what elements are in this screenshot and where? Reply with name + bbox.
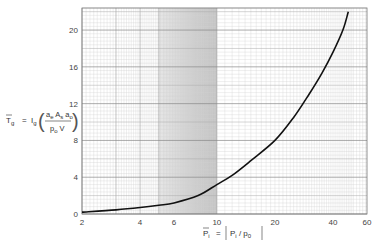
x-tick-label: 60: [363, 218, 372, 227]
grid-minor: [82, 8, 367, 214]
y-tick-label: 12: [69, 100, 78, 109]
x-tick-label: 2: [80, 218, 85, 227]
x-label-p0-sub: 0: [248, 233, 252, 239]
left-paren: (: [38, 110, 45, 132]
svg-text:Ig: Ig: [31, 116, 37, 126]
y-tick-label: 4: [74, 173, 79, 182]
x-label-P-sub: i: [208, 233, 209, 239]
y-tick-label: 16: [69, 63, 78, 72]
x-tick-label: 40: [329, 218, 338, 227]
svg-text:Tg: Tg: [6, 116, 14, 126]
x-tick-labels: 24610204060: [80, 218, 372, 227]
x-axis-label: Pi = Pi / p0: [203, 226, 262, 240]
svg-text:po V: po V: [50, 124, 65, 134]
x-label-equals: =: [216, 229, 221, 238]
y-label-I-sub: g: [33, 120, 36, 126]
x-tick-label: 20: [270, 218, 279, 227]
svg-text:ae As ao: ae As ao: [46, 110, 73, 120]
chart: 048121620 24610204060 Tg = Ig ( ae As ao…: [0, 0, 382, 249]
right-paren: ): [72, 110, 79, 132]
x-tick-label: 10: [212, 218, 221, 227]
svg-text:Pi: Pi: [203, 229, 210, 239]
y-label-equals: =: [22, 116, 27, 125]
y-label-T-sub: g: [11, 120, 14, 126]
x-tick-label: 4: [138, 218, 143, 227]
svg-text:Pi / p0: Pi / p0: [230, 229, 252, 239]
y-tick-label: 0: [74, 210, 79, 219]
y-axis-label: Tg = Ig ( ae As ao po V ): [6, 110, 79, 134]
y-tick-label: 8: [74, 136, 79, 145]
x-tick-label: 6: [172, 218, 177, 227]
y-tick-label: 20: [69, 26, 78, 35]
